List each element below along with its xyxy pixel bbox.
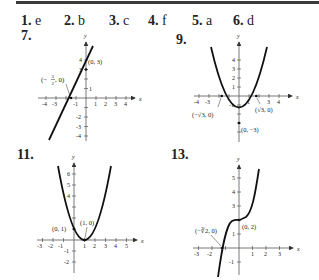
svg-text:1: 1: [232, 84, 235, 90]
svg-text:-1: -1: [229, 259, 234, 265]
svg-text:-2: -2: [76, 114, 81, 120]
graph-11: x y -3 -2 -1 1 2 3 4 5 6 5 4 -1: [37, 154, 144, 273]
svg-text:(0, 1): (0, 1): [52, 225, 66, 233]
svg-text:5: 5: [125, 243, 128, 249]
svg-text:-3: -3: [52, 101, 57, 107]
svg-text:y: y: [236, 156, 240, 162]
svg-text:-3: -3: [37, 243, 42, 249]
svg-text:x: x: [296, 246, 300, 252]
svg-text:3: 3: [104, 243, 107, 249]
svg-text:2: 2: [104, 101, 107, 107]
graph-9: x y -4 -3 1 3 4 4 3 2 1 -1: [192, 33, 299, 142]
svg-text:(−∛2, 0): (−∛2, 0): [195, 226, 217, 235]
svg-text:-3: -3: [205, 99, 210, 105]
svg-text:3: 3: [232, 203, 235, 209]
svg-text:2: 2: [264, 251, 267, 257]
svg-text:x: x: [138, 96, 142, 102]
svg-text:4: 4: [232, 57, 235, 63]
svg-text:(−: (−: [41, 76, 47, 84]
svg-text:1: 1: [232, 231, 235, 237]
svg-text:4: 4: [232, 189, 235, 195]
svg-text:(−√3, 0): (−√3, 0): [192, 111, 213, 119]
svg-text:5: 5: [67, 182, 70, 188]
svg-text:1: 1: [251, 251, 254, 257]
graphs: x y -4 -3 -1 1 2 3 4 4 3 1 -2: [0, 0, 319, 280]
svg-text:3: 3: [232, 66, 235, 72]
svg-text:(1, 0): (1, 0): [80, 219, 94, 227]
svg-text:1: 1: [94, 101, 97, 107]
svg-text:-2: -2: [64, 259, 69, 265]
svg-text:x: x: [140, 238, 144, 244]
svg-text:4: 4: [114, 243, 117, 249]
svg-text:-1: -1: [58, 243, 63, 249]
graph-13: x y -3 -2 1 2 3 5 4 3 1 -1 (−∛: [193, 156, 300, 277]
svg-text:(√3, 0): (√3, 0): [255, 106, 273, 114]
svg-text:-4: -4: [76, 133, 81, 139]
svg-text:4: 4: [124, 101, 127, 107]
svg-text:, 0): , 0): [55, 76, 65, 84]
svg-text:y: y: [83, 33, 87, 39]
svg-text:2: 2: [232, 75, 235, 81]
svg-text:y: y: [236, 33, 240, 39]
svg-text:3: 3: [114, 101, 117, 107]
svg-text:-3: -3: [194, 251, 199, 257]
svg-text:4: 4: [67, 193, 70, 199]
svg-text:-4: -4: [194, 99, 199, 105]
svg-text:-1: -1: [73, 101, 78, 107]
svg-text:-1: -1: [64, 248, 69, 254]
svg-text:2: 2: [93, 243, 96, 249]
svg-text:-3: -3: [76, 124, 81, 130]
svg-text:(0, 3): (0, 3): [88, 58, 102, 66]
graph-7: x y -4 -3 -1 1 2 3 4 4 3 1 -2: [38, 33, 142, 141]
svg-text:1: 1: [83, 243, 86, 249]
svg-text:(0, 2): (0, 2): [242, 223, 256, 231]
svg-text:-4: -4: [42, 101, 47, 107]
svg-text:-2: -2: [207, 251, 212, 257]
svg-text:5: 5: [232, 175, 235, 181]
svg-text:(0, −3): (0, −3): [241, 126, 259, 134]
svg-text:4: 4: [79, 57, 82, 63]
svg-text:3: 3: [267, 99, 270, 105]
svg-text:x: x: [295, 94, 299, 100]
svg-text:6: 6: [67, 171, 70, 177]
svg-text:1: 1: [89, 86, 92, 92]
svg-text:-2: -2: [48, 243, 53, 249]
svg-text:3: 3: [278, 251, 281, 257]
svg-text:4: 4: [277, 99, 280, 105]
svg-text:y: y: [71, 154, 75, 160]
